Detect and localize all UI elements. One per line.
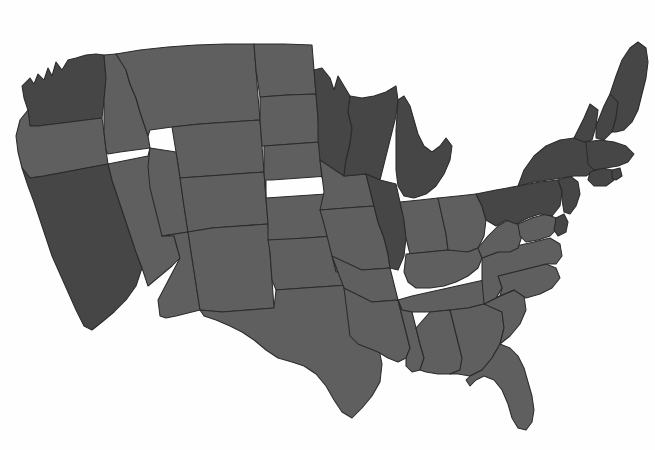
states-layer: WashingtonOregonCaliforniaIdahoNevadaMon… bbox=[16, 42, 648, 430]
state-vt[interactable]: Vermont bbox=[574, 104, 598, 142]
state-de[interactable]: Delaware bbox=[554, 214, 568, 236]
state-co[interactable]: Colorado bbox=[180, 172, 268, 232]
state-wi[interactable]: Wisconsin bbox=[344, 86, 398, 180]
state-wy[interactable]: Wyoming bbox=[172, 120, 264, 178]
state-nd[interactable]: North Dakota bbox=[254, 44, 316, 97]
state-ne[interactable]: Nebraska bbox=[264, 142, 328, 198]
state-me[interactable]: Maine bbox=[610, 42, 648, 132]
us-choropleth-map: WashingtonOregonCaliforniaIdahoNevadaMon… bbox=[0, 0, 655, 450]
state-mi[interactable]: Michigan bbox=[396, 96, 452, 198]
state-wa[interactable]: Washington bbox=[22, 54, 106, 126]
us-map-svg: WashingtonOregonCaliforniaIdahoNevadaMon… bbox=[0, 0, 655, 450]
state-nh[interactable]: New Hampshire bbox=[596, 94, 618, 140]
state-ky[interactable]: Kentucky bbox=[404, 248, 482, 288]
state-ma[interactable]: Massachusetts bbox=[586, 140, 634, 170]
state-ri[interactable]: Rhode Island bbox=[612, 168, 622, 180]
state-sd[interactable]: South Dakota bbox=[260, 94, 320, 146]
state-nm[interactable]: New Mexico bbox=[188, 224, 274, 312]
